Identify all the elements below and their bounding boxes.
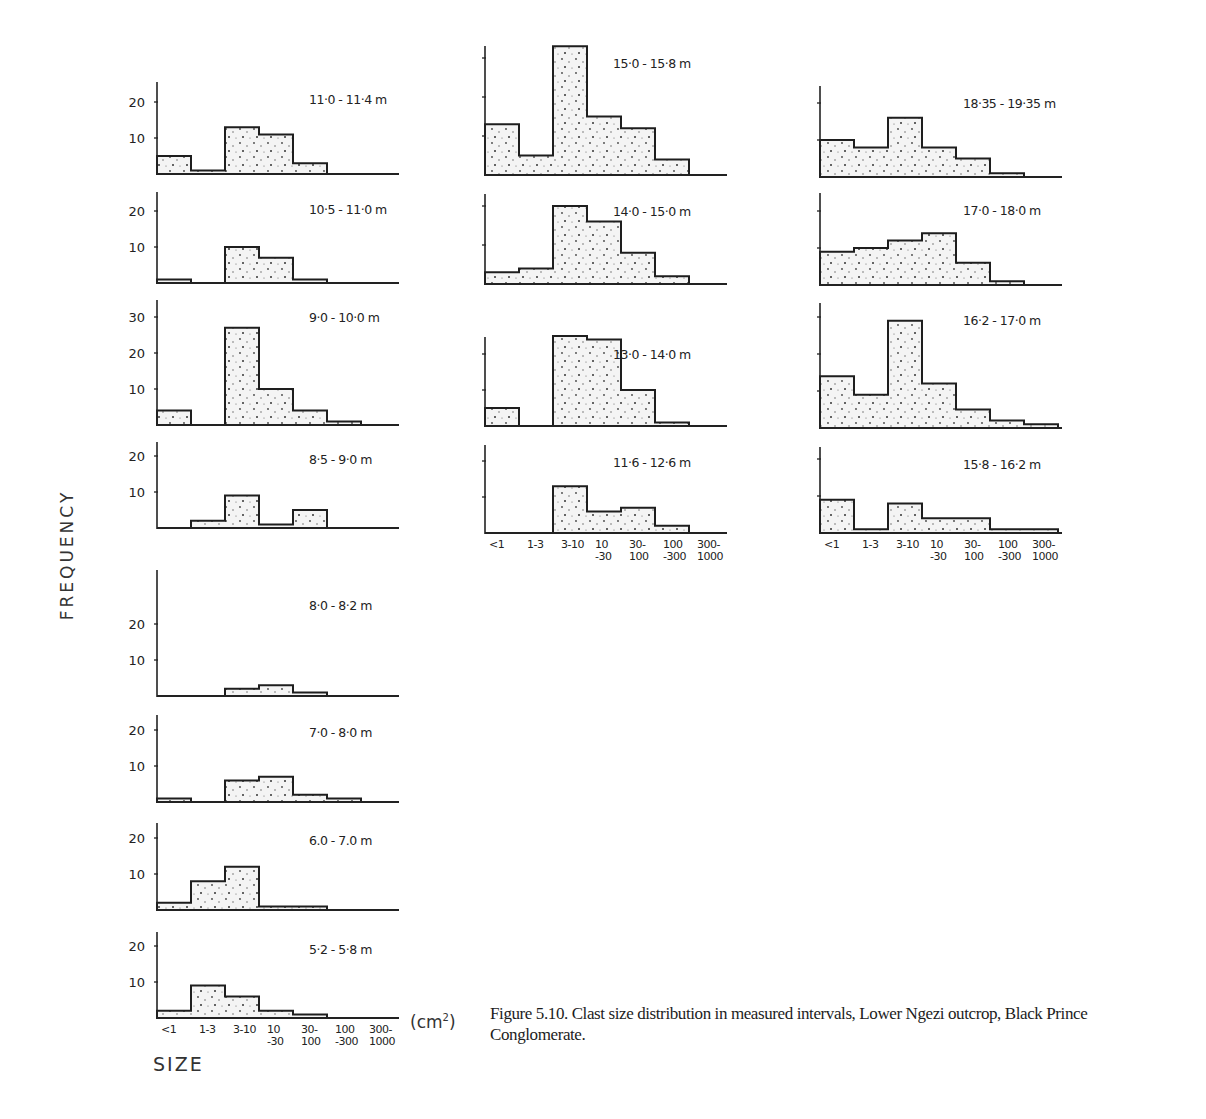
x-tick-label-line2: -30: [267, 1035, 284, 1048]
histogram-panel: 10208·0 - 8·2 m: [128, 570, 399, 697]
y-tick-label: 20: [128, 939, 145, 954]
panel-label: 14·0 - 15·0 m: [613, 204, 691, 219]
y-tick-label: 10: [128, 131, 145, 146]
x-tick-label: <1: [161, 1023, 176, 1036]
y-tick-label: 20: [128, 617, 145, 632]
histogram-panel: 102010·5 - 11·0 m: [128, 192, 399, 284]
histogram-panel: 15·8 - 16·2 m<11-33-1010-3030-100100-300…: [817, 447, 1062, 563]
histogram-panel: 10206.0 - 7.0 m: [128, 823, 399, 911]
panel-label: 15·8 - 16·2 m: [963, 457, 1041, 472]
x-tick-label: <1: [824, 538, 839, 551]
histogram-bars: [157, 496, 395, 528]
histogram-figure: 102011·0 - 11·4 m102010·5 - 11·0 m102030…: [0, 0, 1206, 1119]
histogram-panel: 10208·5 - 9·0 m: [128, 442, 399, 529]
y-tick-label: 20: [128, 346, 145, 361]
x-tick-label: 3-10: [233, 1023, 256, 1036]
panel-label: 13·0 - 14·0 m: [613, 347, 691, 362]
x-tick-label-line2: 1000: [369, 1035, 395, 1048]
x-tick-label-line2: -300: [663, 550, 686, 563]
panel-label: 18·35 - 19·35 m: [963, 96, 1056, 111]
histogram-panel: 17·0 - 18·0 m: [817, 193, 1062, 286]
panel-label: 8·5 - 9·0 m: [309, 452, 372, 467]
panel-label: 16·2 - 17·0 m: [963, 313, 1041, 328]
panel-label: 15·0 - 15·8 m: [613, 56, 691, 71]
histogram-panel: 18·35 - 19·35 m: [817, 86, 1062, 178]
histogram-bars: [157, 328, 395, 425]
y-tick-label: 20: [128, 204, 145, 219]
histogram-panel: 16·2 - 17·0 m: [817, 303, 1062, 429]
y-tick-label: 20: [128, 449, 145, 464]
panel-label: 10·5 - 11·0 m: [309, 202, 387, 217]
y-tick-label: 20: [128, 831, 145, 846]
histogram-panel: 102011·0 - 11·4 m: [128, 82, 399, 175]
y-tick-label: 10: [128, 382, 145, 397]
x-tick-label: 1-3: [527, 538, 544, 551]
histogram-bars: [157, 867, 395, 910]
histogram-bars: [157, 685, 395, 696]
panel-label: 9·0 - 10·0 m: [309, 310, 380, 325]
histogram-bars: [157, 247, 395, 283]
histogram-panel: 10205·2 - 5·8 m<11-33-1010-3030-100100-3…: [128, 932, 399, 1048]
x-tick-label-line2: 1000: [697, 550, 723, 563]
histogram-bars: [820, 233, 1058, 285]
panel-label: 7·0 - 8·0 m: [309, 725, 372, 740]
unit-label: (cm2): [410, 1012, 456, 1032]
histogram-bars: [820, 500, 1058, 533]
y-tick-label: 10: [128, 485, 145, 500]
x-tick-label-line2: -30: [595, 550, 612, 563]
x-tick-label-line2: -300: [335, 1035, 358, 1048]
panel-label: 11·0 - 11·4 m: [309, 92, 387, 107]
figure-caption: Figure 5.10. Clast size distribution in …: [490, 1003, 1130, 1045]
x-tick-label-line2: 100: [964, 550, 984, 563]
histogram-bars: [157, 777, 395, 802]
histogram-bars: [157, 986, 395, 1018]
panel-label: 11·6 - 12·6 m: [613, 455, 691, 470]
y-tick-label: 10: [128, 759, 145, 774]
panel-label: 5·2 - 5·8 m: [309, 942, 372, 957]
histogram-bars: [820, 118, 1058, 177]
histogram-bars: [157, 127, 395, 174]
x-axis-title: SIZE: [153, 1053, 204, 1075]
x-tick-label: 3-10: [561, 538, 584, 551]
x-tick-label: 3-10: [896, 538, 919, 551]
x-tick-label-line2: 100: [301, 1035, 321, 1048]
histogram-bars: [485, 486, 723, 533]
y-tick-label: 10: [128, 867, 145, 882]
x-tick-label-line2: -300: [998, 550, 1021, 563]
x-tick-label-line2: -30: [930, 550, 947, 563]
x-tick-label: 1-3: [199, 1023, 216, 1036]
histogram-panel: 11·6 - 12·6 m<11-33-1010-3030-100100-300…: [482, 445, 727, 563]
histogram-panel: 15·0 - 15·8 m: [482, 46, 727, 176]
y-tick-label: 10: [128, 975, 145, 990]
y-tick-label: 10: [128, 240, 145, 255]
x-tick-label-line2: 100: [629, 550, 649, 563]
panel-label: 8·0 - 8·2 m: [309, 598, 372, 613]
y-tick-label: 20: [128, 95, 145, 110]
x-tick-label: 1-3: [862, 538, 879, 551]
y-tick-label: 30: [128, 310, 145, 325]
histogram-panel: 14·0 - 15·0 m: [482, 194, 727, 285]
y-tick-label: 10: [128, 653, 145, 668]
histogram-panel: 13·0 - 14·0 m: [482, 336, 727, 427]
y-tick-label: 20: [128, 723, 145, 738]
histogram-panel: 10207·0 - 8·0 m: [128, 715, 399, 803]
frequency-label: FREQUENCY: [57, 490, 77, 621]
x-tick-label: <1: [489, 538, 504, 551]
panel-label: 17·0 - 18·0 m: [963, 203, 1041, 218]
panel-label: 6.0 - 7.0 m: [309, 833, 372, 848]
histogram-bars: [820, 321, 1058, 428]
x-tick-label-line2: 1000: [1032, 550, 1058, 563]
histogram-panel: 1020309·0 - 10·0 m: [128, 300, 399, 426]
y-axis-title: FREQUENCY: [52, 470, 82, 640]
